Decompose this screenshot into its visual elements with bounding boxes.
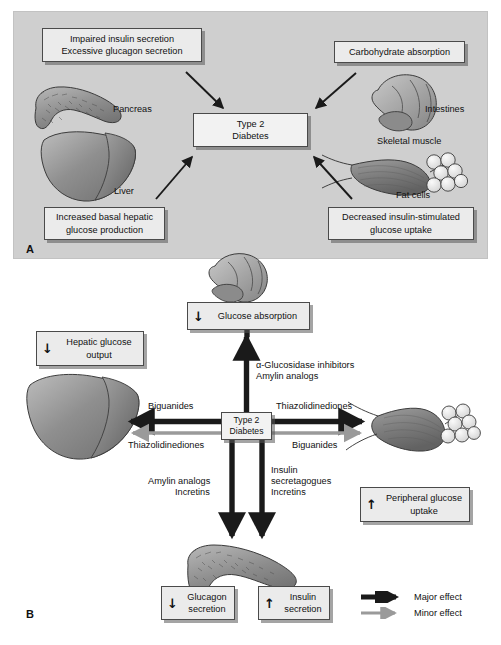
organ-label-pancreas: Pancreas (113, 104, 152, 116)
box-text: Glucose absorption (211, 310, 304, 322)
drug-label-biguanides-right: Biguanides (292, 440, 337, 452)
box-line-2: secretion (282, 603, 324, 615)
box-line-1: Insulin (282, 591, 324, 603)
drug-label-biguanides-left: Biguanides (148, 401, 193, 413)
center-line-1: Type 2 (199, 118, 302, 130)
drug-label-incretins-left: Incretins (175, 487, 210, 499)
legend-label-minor: Minor effect (414, 608, 462, 618)
organ-label-skeletal-muscle: Skeletal muscle (377, 136, 441, 148)
box-increased-basal-hepatic-glucose-production: Increased basal hepatic glucose producti… (44, 207, 165, 240)
organ-label-intestines: Intestines (425, 104, 464, 116)
center-line-1: Type 2 (227, 415, 266, 426)
legend-row-major: Major effect (360, 590, 462, 603)
box-line-2: glucose uptake (334, 224, 468, 236)
up-arrow-icon: ↑ (264, 597, 275, 610)
box-carbohydrate-absorption: Carbohydrate absorption (334, 41, 465, 63)
box-line-2: glucose production (50, 224, 159, 236)
box-line-1: Peripheral glucose (384, 492, 464, 504)
down-arrow-icon: ↓ (42, 342, 53, 355)
box-decreased-insulin-stimulated-glucose-uptake: Decreased insulin-stimulated glucose upt… (328, 207, 474, 240)
box-type-2-diabetes-panel-a: Type 2 Diabetes (193, 113, 308, 147)
down-arrow-icon: ↓ (167, 597, 178, 610)
drug-label-thiazolidinediones-right: Thiazolidinediones (276, 401, 352, 413)
liver-illustration-b (27, 374, 139, 459)
box-line-2: Excessive glucagon secretion (48, 45, 196, 57)
box-line-1: Hepatic glucose (60, 336, 138, 348)
up-arrow-icon: ↑ (366, 498, 377, 511)
box-impaired-insulin-secretion: Impaired insulin secretion Excessive glu… (42, 28, 202, 62)
box-glucose-absorption: ↓ Glucose absorption (187, 302, 310, 330)
box-line-2: secretion (185, 603, 229, 615)
legend-row-minor: Minor effect (360, 606, 462, 619)
minor-effect-arrow-icon (360, 607, 406, 619)
box-line-1: Impaired insulin secretion (48, 33, 196, 45)
organ-label-liver: Liver (114, 186, 134, 198)
box-line-2: output (60, 349, 138, 361)
drug-label-amylin-analogs-up: Amylin analogs (256, 371, 318, 383)
box-hepatic-glucose-output: ↓ Hepatic glucose output (36, 331, 144, 366)
organ-label-fat-cells: Fat cells (396, 190, 430, 202)
figure-root: Impaired insulin secretion Excessive glu… (0, 0, 501, 645)
panel-letter-b: B (26, 608, 34, 620)
panel-letter-a: A (26, 243, 34, 255)
drug-label-incretins-right: Incretins (271, 487, 306, 499)
fat-cells-illustration-b (441, 404, 480, 443)
major-effect-arrow-icon (360, 591, 406, 603)
legend: Major effect Minor effect (360, 590, 462, 622)
skeletal-muscle-illustration-b (346, 402, 464, 451)
box-line-1: Decreased insulin-stimulated (334, 211, 468, 223)
box-type-2-diabetes-panel-b: Type 2 Diabetes (221, 412, 272, 440)
down-arrow-icon: ↓ (193, 310, 204, 323)
box-peripheral-glucose-uptake: ↑ Peripheral glucose uptake (360, 487, 470, 522)
box-line-1: Increased basal hepatic (50, 211, 159, 223)
box-glucagon-secretion: ↓ Glucagon secretion (161, 586, 235, 620)
box-text: Carbohydrate absorption (340, 46, 459, 58)
legend-label-major: Major effect (414, 592, 462, 602)
box-insulin-secretion: ↑ Insulin secretion (258, 586, 330, 620)
intestines-illustration-b (209, 254, 267, 302)
box-line-1: Glucagon (185, 591, 229, 603)
drug-label-thiazolidinediones-left: Thiazolidinediones (128, 440, 204, 452)
center-line-2: Diabetes (227, 426, 266, 437)
center-line-2: Diabetes (199, 130, 302, 142)
box-line-2: uptake (384, 505, 464, 517)
